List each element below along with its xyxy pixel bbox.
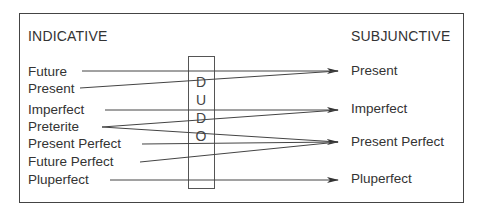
box-letter-u: U xyxy=(188,92,214,108)
box-letter-o: O xyxy=(188,128,214,144)
box-letter-d1: D xyxy=(188,74,214,90)
mapping-arrows xyxy=(0,0,483,214)
box-letter-d2: D xyxy=(188,110,214,126)
